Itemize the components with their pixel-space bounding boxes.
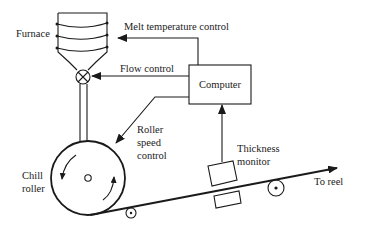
- roller-speed-label-2: speed: [137, 137, 162, 148]
- computer-label: Computer: [199, 79, 241, 90]
- sheet-line: [90, 168, 337, 215]
- flow-valve-icon: [76, 70, 90, 84]
- furnace: [56, 13, 109, 70]
- chill-roller-label-2: roller: [22, 183, 45, 194]
- thickness-monitor-label-2: monitor: [237, 156, 271, 167]
- to-reel-label: To reel: [314, 176, 343, 187]
- roller-speed-label-1: Roller: [137, 124, 164, 135]
- thickness-monitor-label-1: Thickness: [237, 143, 280, 154]
- melt-pipe: [80, 84, 87, 141]
- roller-speed-label-3: control: [137, 150, 167, 161]
- flow-control-label: Flow control: [120, 63, 174, 74]
- thickness-monitor-upper-sensor: [208, 161, 237, 186]
- melt-temperature-arrow: [118, 38, 198, 65]
- idler-roller-right: [268, 180, 284, 196]
- idler-roller-left: [126, 208, 136, 218]
- melt-temperature-label: Melt temperature control: [124, 21, 229, 32]
- chill-roller: [51, 141, 125, 215]
- thickness-monitor-lower-sensor: [214, 191, 241, 208]
- casting-process-diagram: Furnace Chill roller Computer Melt tempe…: [0, 0, 369, 231]
- furnace-label: Furnace: [16, 28, 50, 39]
- chill-roller-label-1: Chill: [22, 170, 43, 181]
